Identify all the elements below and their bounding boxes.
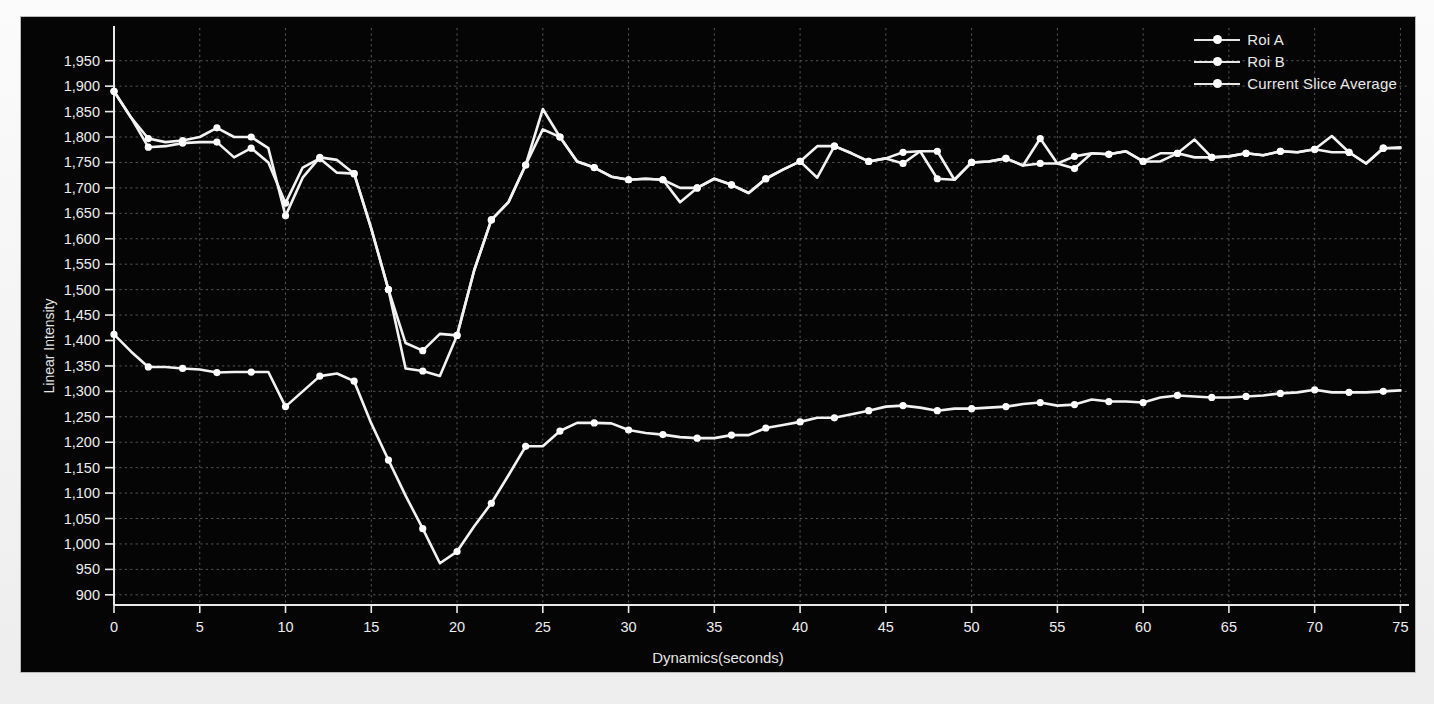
series-point	[1208, 394, 1215, 401]
series-point	[1311, 146, 1318, 153]
series-point	[1345, 149, 1352, 156]
series-point	[110, 88, 117, 95]
series-point	[899, 149, 906, 156]
legend-item-roi-b[interactable]: Roi B	[1194, 51, 1397, 72]
series-point	[968, 405, 975, 412]
x-tick-label: 75	[1392, 619, 1408, 635]
x-tick-label: 5	[196, 619, 204, 635]
series-point	[385, 456, 392, 463]
series-point	[1037, 399, 1044, 406]
series-point	[488, 500, 495, 507]
series-point	[419, 347, 426, 354]
series-point	[179, 140, 186, 147]
series-point	[110, 331, 117, 338]
legend-label: Roi A	[1247, 31, 1284, 48]
series-point	[1345, 389, 1352, 396]
series-point	[1105, 398, 1112, 405]
series-point	[1105, 151, 1112, 158]
series-point	[934, 407, 941, 414]
series-point	[213, 369, 220, 376]
y-axis-title-container: Linear Intensity	[27, 17, 49, 673]
series-point	[248, 133, 255, 140]
series-point	[831, 414, 838, 421]
legend-label: Current Slice Average	[1247, 75, 1397, 92]
series-point	[591, 419, 598, 426]
y-tick-label: 1,950	[64, 53, 100, 69]
x-axis-title: Dynamics(seconds)	[21, 649, 1415, 666]
y-tick-label: 1,100	[64, 485, 100, 501]
series-point	[522, 161, 529, 168]
x-tick-label: 60	[1135, 619, 1151, 635]
series-point	[248, 145, 255, 152]
series-point	[453, 548, 460, 555]
x-tick-label: 35	[706, 619, 722, 635]
series-point	[591, 164, 598, 171]
series-point	[1140, 399, 1147, 406]
series-point	[796, 158, 803, 165]
series-point	[419, 367, 426, 374]
y-tick-label: 1,600	[64, 231, 100, 247]
y-tick-label: 1,550	[64, 256, 100, 272]
series-point	[762, 175, 769, 182]
x-tick-label: 0	[110, 619, 118, 635]
series-point	[179, 365, 186, 372]
y-tick-label: 1,300	[64, 383, 100, 399]
x-tick-label: 45	[878, 619, 894, 635]
series-line-roi-b	[114, 91, 1400, 376]
series-line-current-slice-average	[114, 334, 1400, 563]
series-point	[1037, 135, 1044, 142]
series-point	[865, 158, 872, 165]
y-tick-label: 900	[76, 587, 100, 603]
y-tick-label: 1,350	[64, 358, 100, 374]
series-point	[625, 426, 632, 433]
legend-marker-icon	[1194, 33, 1240, 47]
series-point	[556, 427, 563, 434]
y-tick-label: 1,250	[64, 409, 100, 425]
series-point	[1071, 153, 1078, 160]
series-point	[762, 424, 769, 431]
legend-item-roi-a[interactable]: Roi A	[1194, 29, 1397, 50]
series-point	[625, 176, 632, 183]
x-tick-label: 55	[1049, 619, 1065, 635]
series-point	[282, 403, 289, 410]
series-point	[419, 525, 426, 532]
y-tick-label: 1,450	[64, 307, 100, 323]
chart-legend[interactable]: Roi A Roi B Current Slice Average	[1194, 29, 1397, 94]
x-tick-label: 40	[792, 619, 808, 635]
series-point	[145, 363, 152, 370]
y-tick-label: 1,900	[64, 78, 100, 94]
series-point	[248, 368, 255, 375]
series-point	[728, 181, 735, 188]
y-tick-label: 1,400	[64, 332, 100, 348]
series-point	[1071, 401, 1078, 408]
series-point	[1380, 145, 1387, 152]
series-point	[316, 373, 323, 380]
series-point	[316, 155, 323, 162]
y-tick-label: 1,500	[64, 282, 100, 298]
x-tick-label: 10	[277, 619, 293, 635]
series-line-roi-a	[114, 91, 1400, 350]
series-point	[282, 212, 289, 219]
y-tick-label: 1,050	[64, 511, 100, 527]
series-point	[934, 148, 941, 155]
series-point	[1002, 403, 1009, 410]
series-point	[145, 144, 152, 151]
series-point	[1311, 386, 1318, 393]
series-point	[659, 431, 666, 438]
legend-marker-icon	[1194, 77, 1240, 91]
series-point	[1242, 393, 1249, 400]
chart-screenshot: 9009501,0001,0501,1001,1501,2001,2501,30…	[0, 0, 1434, 704]
series-point	[865, 407, 872, 414]
legend-item-current-slice-average[interactable]: Current Slice Average	[1194, 73, 1397, 94]
y-tick-label: 1,200	[64, 434, 100, 450]
series-point	[694, 184, 701, 191]
series-point	[659, 176, 666, 183]
series-point	[1174, 150, 1181, 157]
series-point	[796, 418, 803, 425]
legend-marker-icon	[1194, 55, 1240, 69]
y-tick-label: 1,850	[64, 104, 100, 120]
x-tick-label: 50	[964, 619, 980, 635]
y-tick-label: 950	[76, 561, 100, 577]
chart-plot-area: 9009501,0001,0501,1001,1501,2001,2501,30…	[21, 17, 1415, 672]
series-point	[934, 175, 941, 182]
